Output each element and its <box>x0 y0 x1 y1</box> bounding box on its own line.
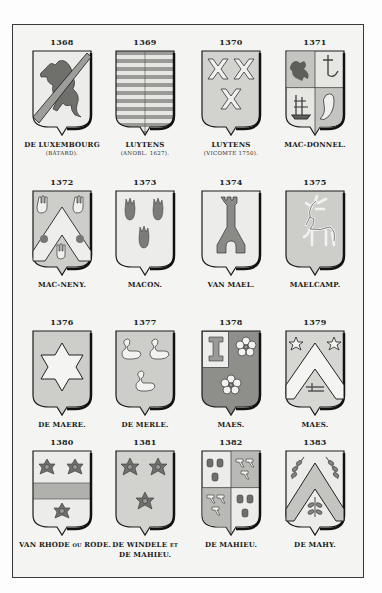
family-name: DE MERLE. <box>102 420 188 429</box>
entry-number: 1383 <box>272 437 358 447</box>
family-name: MAC-NENY. <box>19 280 105 289</box>
entry-number: 1372 <box>19 177 105 187</box>
coat-of-arms-1375: 1375 MAELCAMP. <box>272 177 358 289</box>
entry-number: 1381 <box>102 437 188 447</box>
shield-quarterly-icon <box>282 49 348 137</box>
shield-quarterly-mallets-icon <box>198 449 264 537</box>
shield-fess-roses-icon <box>29 449 95 537</box>
shield-saltires-icon <box>198 49 264 137</box>
family-name: DE MAHY. <box>272 540 358 549</box>
family-name: MAELCAMP. <box>272 280 358 289</box>
shield-canton-cinquefoils-icon <box>198 329 264 417</box>
coat-of-arms-1377: 1377 DE MERLE. <box>102 317 188 429</box>
coat-of-arms-1371: 1371 MAC-DONNEL. <box>272 37 358 149</box>
coat-of-arms-1380: 1380 VAN RHODE OU RODE. <box>19 437 105 550</box>
family-name: DE MAHIEU. <box>188 540 274 549</box>
family-name: DE MAERE. <box>19 420 105 429</box>
entry-number: 1369 <box>102 37 188 47</box>
coat-of-arms-1373: 1373 MACON. <box>102 177 188 289</box>
family-name: VAN MAEL. <box>188 280 274 289</box>
coat-of-arms-1379: 1379 MAES. <box>272 317 358 429</box>
family-note: (BÂTARD). <box>19 149 105 157</box>
shield-star-icon <box>29 329 95 417</box>
family-name: MACON. <box>102 280 188 289</box>
coat-of-arms-1381: 1381 DE WINDELE ET DE MAHIEU. <box>102 437 188 559</box>
coat-of-arms-1374: 1374 VAN MAEL. <box>188 177 274 289</box>
entry-number: 1371 <box>272 37 358 47</box>
entry-number: 1375 <box>272 177 358 187</box>
shield-swans-icon <box>112 329 178 417</box>
armorial-plate: 1368 DE LUXEMBOURG (BÂTARD). 1369 <box>12 24 364 578</box>
entry-number: 1373 <box>102 177 188 187</box>
coat-of-arms-1383: 1383 DE MAHY. <box>272 437 358 549</box>
family-name: MAC-DONNEL. <box>272 140 358 149</box>
shield-three-roses-icon <box>112 449 178 537</box>
family-name: VAN RHODE OU RODE. <box>19 540 105 550</box>
shield-barry-icon <box>112 49 178 137</box>
entry-number: 1370 <box>188 37 274 47</box>
coat-of-arms-1378: 1378 MAES. <box>188 317 274 429</box>
entry-number: 1376 <box>19 317 105 327</box>
family-name: LUYTENS <box>102 140 188 149</box>
coat-of-arms-1372: 1372 MAC-NENY. <box>19 177 105 289</box>
entry-number: 1374 <box>188 177 274 187</box>
entry-number: 1379 <box>272 317 358 327</box>
coat-of-arms-1382: 1382 DE MAHIEU. <box>188 437 274 549</box>
entry-number: 1380 <box>19 437 105 447</box>
shield-lion-bend-icon <box>29 49 95 137</box>
family-note: (ANOBL. 1627). <box>102 149 188 157</box>
coat-of-arms-1368: 1368 DE LUXEMBOURG (BÂTARD). <box>19 37 105 157</box>
coat-of-arms-1376: 1376 DE MAERE. <box>19 317 105 429</box>
shield-flames-icon <box>112 189 178 277</box>
family-note: (VICOMTE 1750). <box>188 149 274 157</box>
shield-chevron-stars-icon <box>282 329 348 417</box>
shield-tower-icon <box>198 189 264 277</box>
family-name: MAES. <box>272 420 358 429</box>
entry-number: 1382 <box>188 437 274 447</box>
family-name: MAES. <box>188 420 274 429</box>
entry-number: 1378 <box>188 317 274 327</box>
coat-of-arms-1370: 1370 LUYTENS (VICOMTE 1750). <box>188 37 274 157</box>
entry-number: 1377 <box>102 317 188 327</box>
family-name: DE LUXEMBOURG <box>19 140 105 149</box>
family-name: LUYTENS <box>188 140 274 149</box>
shield-stag-icon <box>282 189 348 277</box>
family-name: DE WINDELE ET DE MAHIEU. <box>102 540 188 559</box>
shield-chevron-branches-icon <box>282 449 348 537</box>
shield-chevron-hands-icon <box>29 189 95 277</box>
coat-of-arms-1369: 1369 LUYTENS (ANOBL. 1627). <box>102 37 188 157</box>
entry-number: 1368 <box>19 37 105 47</box>
